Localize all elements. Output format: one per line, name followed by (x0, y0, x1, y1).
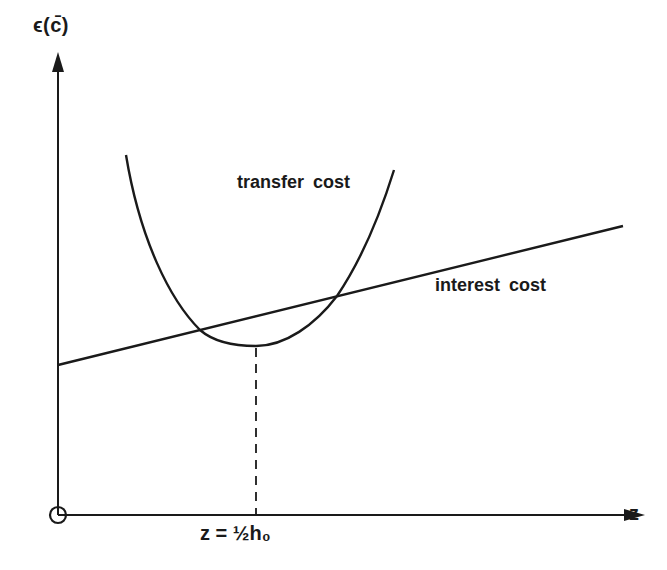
cost-diagram: ϵ(c̄) z transfer cost interest cost z = … (0, 0, 667, 570)
diagram-svg (0, 0, 667, 570)
minimum-marker-label: z = ½h₀ (200, 522, 271, 545)
y-axis-arrow-icon (52, 52, 64, 72)
y-axis (52, 52, 64, 515)
x-axis-label: z (629, 502, 639, 525)
interest-cost-label: interest cost (435, 275, 546, 296)
x-axis (58, 509, 645, 521)
transfer-cost-label: transfer cost (237, 172, 350, 193)
y-axis-label: ϵ(c̄) (33, 14, 69, 37)
